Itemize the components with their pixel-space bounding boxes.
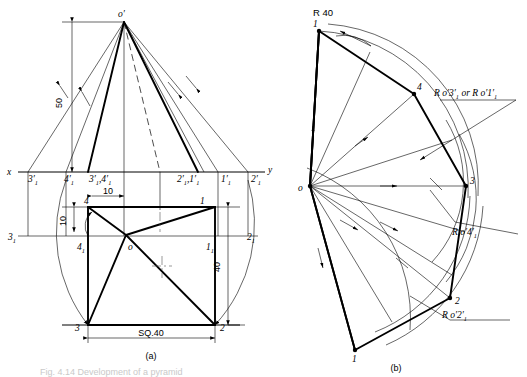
label-b-3: 3	[469, 176, 475, 186]
development-edge-o-1bot	[310, 186, 355, 350]
point-dot-3	[464, 184, 468, 188]
view-a-group: 50 10 10 40 SQ.40 x y o′ o 3′1	[6, 9, 273, 361]
edge-apex-4p1	[66, 22, 124, 172]
annotation-r-o4p: R o′4′1	[451, 227, 477, 239]
arrow-edge-right-outer	[186, 76, 196, 88]
label-r40: R 40	[313, 7, 333, 18]
label-1sub1: 11	[206, 242, 214, 254]
dev-radial-o-a	[310, 52, 370, 186]
figure-canvas: 50 10 10 40 SQ.40 x y o′ o 3′1	[0, 0, 527, 377]
label-b-o: o	[298, 183, 303, 193]
label-1: 1	[200, 196, 205, 206]
dim-label-10-vertical: 10	[58, 216, 68, 226]
plan-diagonals-upper	[88, 207, 215, 235]
arc-top-2	[328, 24, 478, 196]
dim-label-50: 50	[54, 98, 64, 108]
view-b-group: R 40 R o′3′1 or R o′1′1 R o′4′1 R o′2′1 …	[298, 7, 518, 373]
axis-y-label: y	[267, 165, 273, 175]
edge-apex-12-thick	[124, 22, 198, 172]
arrow-radial-4	[355, 137, 368, 146]
label-3p1: 3′1	[27, 174, 38, 186]
plan-square-outline	[88, 207, 215, 325]
edge-apex-inner-right	[124, 22, 204, 172]
caption-b: (b)	[391, 363, 402, 373]
label-b-1-bot: 1	[352, 354, 357, 364]
label-3sub1: 31	[7, 232, 16, 244]
arc-right-rabatment	[215, 180, 254, 325]
label-2: 2	[220, 323, 225, 333]
hidden-edge-apex-mid	[124, 22, 160, 172]
dev-radial-o-4	[310, 94, 414, 186]
dim-label-sq40: SQ.40	[138, 328, 164, 338]
leader-r-o4	[430, 190, 455, 222]
label-4: 4	[84, 196, 89, 206]
label-b-2: 2	[455, 296, 460, 306]
label-3p4p1: 3′1,4′1	[88, 174, 111, 186]
label-b-4: 4	[417, 82, 422, 92]
arrow-edge-left-inner	[82, 92, 90, 106]
label-3: 3	[74, 323, 80, 333]
label-2p1: 2′1	[251, 174, 261, 186]
r40-leader	[340, 31, 371, 46]
point-dot-4	[412, 92, 416, 96]
label-4sub1: 41	[77, 242, 85, 254]
technical-drawing-svg: 50 10 10 40 SQ.40 x y o′ o 3′1	[0, 0, 527, 377]
arc-r40-outer	[307, 168, 410, 330]
label-1p1: 1′1	[221, 174, 231, 186]
dim-label-10-horizontal: 10	[103, 186, 113, 196]
arrow-edge-right-inner	[168, 82, 178, 94]
dim-label-40: 40	[212, 262, 222, 272]
dev-radial-o-2	[310, 186, 450, 298]
label-2sub1: 21	[247, 232, 255, 244]
edge-apex-34-thick	[88, 22, 124, 172]
label-4p1: 4′1	[64, 174, 74, 186]
plan-centre-label: o	[128, 242, 133, 252]
arrow-radial-2b	[380, 222, 398, 231]
development-edge-o-1	[310, 31, 319, 186]
apex-label: o′	[118, 9, 126, 19]
point-dot-2	[448, 296, 452, 300]
arc-top-1	[319, 31, 468, 198]
label-2p1p1: 2′1,1′1	[177, 174, 199, 186]
annotation-r-o3p-or-o1p: R o′3′1 or R o′1′1	[433, 88, 497, 100]
view-a-point-labels: 3′1 4′1 3′1,4′1 2′1,1′1 1′1 2′1 4 1 31 4…	[7, 174, 261, 333]
point-dot-1-bot	[353, 348, 357, 352]
caption-a: (a)	[146, 351, 157, 361]
arrow-edge-left-outer	[60, 86, 68, 98]
label-b-1-top: 1	[313, 19, 318, 29]
point-dot-o	[308, 184, 312, 188]
edge-apex-1p1	[124, 22, 218, 172]
edge-apex-3p1	[28, 22, 124, 172]
arc-tick-1	[430, 178, 442, 190]
arrow-radial-1bot	[318, 248, 323, 268]
development-outline	[310, 31, 466, 350]
axis-x-label: x	[6, 167, 12, 177]
plan-diagonals-lower	[88, 235, 215, 325]
footer-faint-text: Fig. 4.14 Development of a pyramid	[40, 367, 183, 377]
point-dot-1-top	[317, 29, 321, 33]
arrow-radial-2a	[340, 220, 358, 230]
